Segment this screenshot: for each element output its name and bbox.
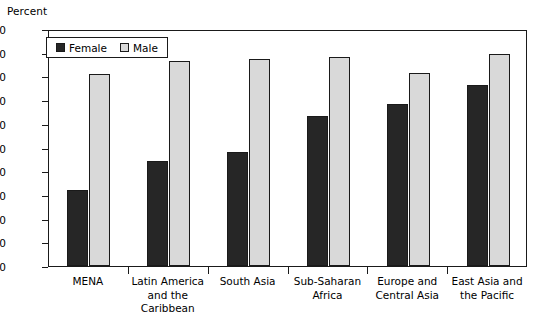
bar-male bbox=[409, 73, 430, 266]
legend-label: Female bbox=[69, 42, 107, 54]
y-tick-label: 20 bbox=[0, 214, 6, 226]
y-tick-label: 60 bbox=[0, 119, 6, 131]
bar-male bbox=[249, 59, 270, 266]
chart-legend: FemaleMale bbox=[46, 37, 168, 58]
bar-male bbox=[169, 61, 190, 266]
bar-female bbox=[307, 116, 328, 266]
x-axis-label: Europe and Central Asia bbox=[367, 275, 447, 302]
x-axis-label: East Asia and the Pacific bbox=[447, 275, 527, 302]
legend-item-female: Female bbox=[56, 42, 107, 54]
bar-female bbox=[467, 85, 488, 266]
x-axis-group-separator bbox=[288, 267, 289, 274]
y-axis-title: Percent bbox=[7, 5, 47, 17]
legend-swatch-female-icon bbox=[56, 43, 65, 52]
x-axis-group-separator bbox=[128, 267, 129, 274]
y-tick-label: 70 bbox=[0, 95, 6, 107]
bar-chart: Percent 1009080706050403020100 MENALatin… bbox=[0, 0, 539, 318]
legend-swatch-male-icon bbox=[120, 43, 129, 52]
y-tick-label: 40 bbox=[0, 166, 6, 178]
legend-label: Male bbox=[133, 42, 158, 54]
x-axis-label: MENA bbox=[48, 275, 128, 289]
y-tick-label: 10 bbox=[0, 237, 6, 249]
x-axis-group-separator bbox=[447, 267, 448, 274]
bar-female bbox=[387, 104, 408, 266]
x-axis-group-separator bbox=[208, 267, 209, 274]
y-tick-label: 50 bbox=[0, 143, 6, 155]
y-tick-label: 90 bbox=[0, 48, 6, 60]
legend-item-male: Male bbox=[120, 42, 158, 54]
y-tick-mark bbox=[42, 267, 48, 268]
bar-female bbox=[227, 152, 248, 266]
x-axis-label: South Asia bbox=[208, 275, 288, 289]
bar-male bbox=[89, 74, 110, 266]
x-axis-group-separator bbox=[367, 267, 368, 274]
bar-male bbox=[489, 54, 510, 266]
y-tick-label: 80 bbox=[0, 71, 6, 83]
x-axis-label: Sub-Saharan Africa bbox=[288, 275, 368, 302]
plot-area bbox=[48, 30, 527, 267]
y-tick-label: 100 bbox=[0, 24, 6, 36]
y-tick-label: 0 bbox=[0, 261, 6, 273]
bar-male bbox=[329, 57, 350, 266]
bar-female bbox=[67, 190, 88, 266]
y-tick-label: 30 bbox=[0, 190, 6, 202]
x-axis-label: Latin America and the Caribbean bbox=[128, 275, 208, 316]
bar-female bbox=[147, 161, 168, 266]
